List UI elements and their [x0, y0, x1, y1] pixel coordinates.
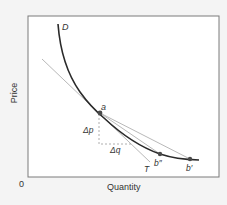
point-b-prime-label: b′ [186, 163, 193, 173]
diagram-canvas: D a Δp Δq T b″ b′ [0, 0, 227, 205]
delta-q-label: Δq [109, 145, 121, 155]
point-b-prime [188, 157, 192, 161]
origin-label: 0 [19, 179, 24, 189]
point-b-double-prime-label: b″ [154, 158, 163, 168]
y-axis-label: Price [9, 83, 19, 104]
demand-curve-label: D [62, 22, 69, 32]
point-b-double-prime [158, 152, 162, 156]
delta-p-label: Δp [82, 125, 94, 135]
plot-frame [28, 16, 219, 177]
x-axis-label: Quantity [107, 182, 141, 192]
demand-elasticity-diagram: D a Δp Δq T b″ b′ Quantity Price 0 [0, 0, 227, 205]
tangent-line-label: T [144, 164, 150, 174]
point-a-label: a [101, 102, 106, 112]
